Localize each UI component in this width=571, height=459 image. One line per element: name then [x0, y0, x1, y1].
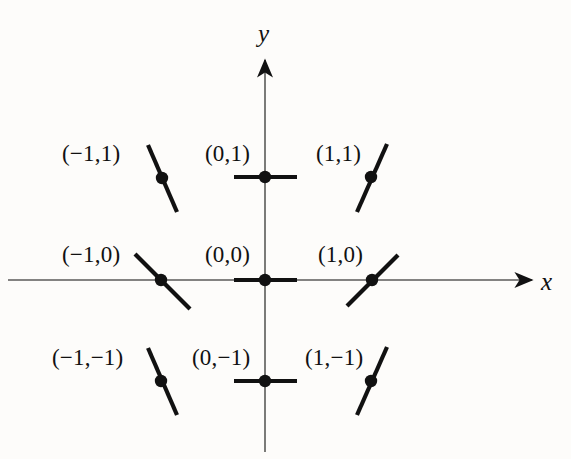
x-axis-label: x — [541, 268, 552, 296]
coordinate-label-neg1-neg1: (−1,−1) — [52, 345, 123, 371]
lattice-dot-1-neg1 — [365, 375, 377, 387]
lattice-dot-neg1-1 — [156, 172, 168, 184]
slope-field-canvas — [0, 0, 571, 459]
lattice-dot-1-0 — [366, 274, 378, 286]
coordinate-label-1-0: (1,0) — [318, 242, 363, 268]
lattice-dot-neg1-0 — [155, 274, 167, 286]
coordinate-label-1-1: (1,1) — [316, 141, 361, 167]
lattice-dot-0-1 — [259, 171, 271, 183]
lattice-dot-0-neg1 — [259, 375, 271, 387]
lattice-dot-0-0 — [259, 274, 271, 286]
coordinate-label-neg1-1: (−1,1) — [62, 141, 120, 167]
coordinate-label-neg1-0: (−1,0) — [62, 242, 120, 268]
coordinate-label-1-neg1: (1,−1) — [305, 345, 363, 371]
lattice-dot-1-1 — [365, 171, 377, 183]
slope-field-figure: (−1,1)(0,1)(1,1)(−1,0)(0,0)(1,0)(−1,−1)(… — [0, 0, 571, 459]
lattice-dot-neg1-neg1 — [155, 375, 167, 387]
coordinate-label-0-0: (0,0) — [205, 242, 250, 268]
y-axis-label: y — [258, 20, 269, 48]
coordinate-label-0-1: (0,1) — [205, 141, 250, 167]
coordinate-label-0-neg1: (0,−1) — [192, 345, 250, 371]
